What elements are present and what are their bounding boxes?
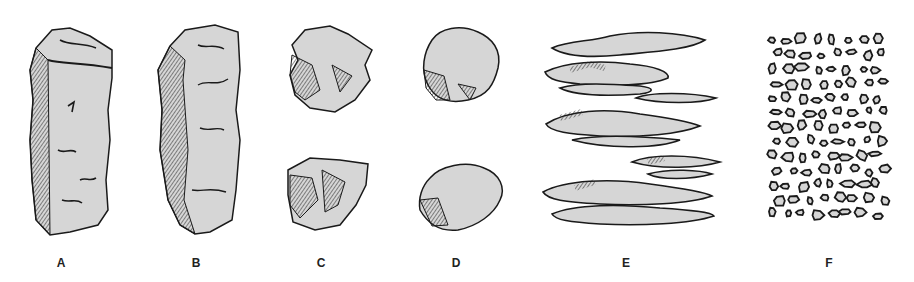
- granule: [842, 66, 850, 75]
- granule: [794, 63, 809, 70]
- panel-label-f: F: [825, 256, 832, 270]
- granule: [819, 110, 827, 118]
- granule: [781, 123, 793, 133]
- granule: [800, 95, 808, 104]
- granule: [781, 153, 793, 162]
- granule: [771, 82, 783, 87]
- granule: [770, 110, 781, 115]
- granule: [828, 153, 840, 160]
- granule: [873, 214, 883, 220]
- granule: [819, 164, 830, 173]
- granule: [843, 123, 851, 128]
- granule: [881, 197, 889, 205]
- granule: [827, 180, 833, 188]
- granule: [871, 67, 881, 74]
- granule: [845, 38, 852, 43]
- granule: [769, 63, 776, 74]
- granule: [820, 141, 828, 146]
- granule: [834, 49, 841, 56]
- granule: [855, 123, 865, 128]
- granule: [848, 139, 855, 146]
- granule: [848, 110, 858, 116]
- granule: [768, 38, 775, 44]
- granule: [774, 196, 785, 206]
- granule: [799, 53, 811, 59]
- granule: [821, 195, 829, 201]
- granule: [865, 169, 872, 176]
- granule: [786, 109, 795, 117]
- granule: [818, 54, 825, 59]
- granule: [874, 34, 883, 44]
- granule: [839, 209, 851, 214]
- granule: [846, 77, 856, 87]
- granule: [835, 164, 841, 173]
- granule: [795, 33, 806, 43]
- granule: [840, 180, 855, 187]
- granule: [860, 95, 868, 104]
- granule: [828, 35, 834, 45]
- granule: [846, 49, 856, 54]
- granule: [866, 107, 871, 113]
- granule: [850, 165, 859, 172]
- panel-f-granular-peds: [767, 33, 891, 220]
- granule: [864, 137, 870, 143]
- granule: [816, 67, 822, 74]
- granule: [847, 195, 857, 201]
- granule: [781, 92, 790, 101]
- granule: [820, 81, 828, 89]
- granule: [767, 150, 776, 158]
- granule: [855, 208, 867, 217]
- granule: [781, 39, 791, 44]
- panel-a-columnar-ped: [30, 28, 112, 235]
- granule: [878, 49, 884, 56]
- granule: [780, 184, 789, 189]
- granule: [783, 64, 794, 73]
- granule: [798, 120, 807, 130]
- granule: [825, 94, 834, 101]
- granule: [879, 165, 891, 173]
- granule: [770, 182, 779, 190]
- granule: [812, 151, 820, 157]
- granule: [769, 208, 776, 216]
- granule: [827, 67, 836, 72]
- granule: [857, 181, 873, 188]
- granule: [786, 210, 791, 216]
- granule: [839, 154, 852, 160]
- panel-b-prismatic-ped: [158, 25, 240, 234]
- granule: [878, 79, 888, 84]
- granule: [814, 121, 822, 130]
- granule: [878, 136, 887, 146]
- granule: [799, 182, 809, 192]
- granule: [873, 96, 880, 104]
- granule: [829, 125, 838, 133]
- granule: [791, 168, 798, 173]
- granule: [857, 150, 868, 161]
- granule: [861, 67, 868, 72]
- granule: [802, 79, 811, 89]
- soil-structure-figure: A B C D E F: [0, 0, 914, 282]
- panel-label-b: B: [192, 256, 201, 270]
- granule: [774, 49, 782, 56]
- granule: [808, 135, 815, 144]
- panel-e-platy-peds: [543, 33, 720, 225]
- granule: [864, 50, 873, 60]
- granule: [860, 36, 869, 43]
- granule: [808, 197, 813, 204]
- granule: [833, 107, 841, 114]
- granule: [811, 98, 821, 103]
- panel-c-angular-blocky-peds: [288, 26, 372, 230]
- granule: [832, 139, 845, 144]
- granule: [815, 34, 822, 44]
- granule: [813, 210, 825, 220]
- granule: [870, 122, 881, 132]
- granule: [784, 50, 794, 57]
- panel-label-e: E: [622, 256, 630, 270]
- granule: [796, 210, 804, 215]
- panel-d-subangular-blocky-peds: [419, 28, 502, 230]
- granule: [788, 196, 799, 203]
- granule: [769, 96, 777, 101]
- granule: [814, 179, 821, 187]
- granule: [868, 152, 881, 157]
- granule: [801, 170, 811, 176]
- granule: [773, 139, 780, 144]
